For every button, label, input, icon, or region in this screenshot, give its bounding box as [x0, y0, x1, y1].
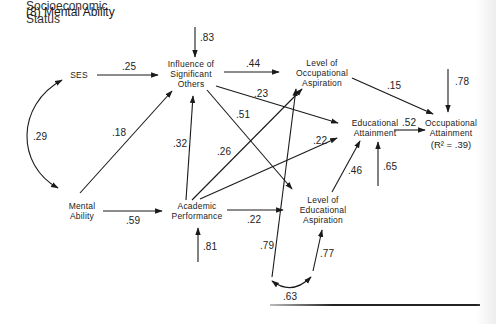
r-squared: (R² = .39) [431, 139, 471, 150]
coef-iso-residual: .83 [200, 32, 214, 43]
page-edge-shadow [476, 0, 496, 324]
svg-text:Occupational: Occupational [425, 118, 477, 128]
coef-ma-iso: .18 [112, 127, 126, 138]
svg-text:Level of: Level of [307, 195, 339, 205]
arrow-residual-correlation [272, 277, 311, 288]
coef-ap-iso: .32 [173, 138, 187, 149]
svg-text:Level of: Level of [306, 58, 338, 68]
arrow-residual-loa [272, 89, 296, 277]
node-level-occupational-aspiration: Level of Occupational Aspiration [296, 58, 348, 88]
coef-loa-residual: .79 [260, 240, 274, 251]
svg-text:Ability: Ability [70, 211, 95, 221]
svg-text:Aspiration: Aspiration [303, 215, 343, 225]
coef-ap-lea: .22 [247, 214, 261, 225]
node-influence-significant-others: Influence of Significant Others [168, 59, 215, 89]
coef-lea-ea: .46 [348, 165, 362, 176]
bottom-rule [270, 304, 480, 306]
coef-ses-ma-correlation: .29 [33, 131, 47, 142]
coef-ea-oa: .52 [402, 117, 416, 128]
coef-loa-oa: .15 [387, 80, 401, 91]
arrow-ap-iso [186, 96, 193, 200]
arrow-ap-loa [192, 89, 302, 200]
coef-ap-ea: .22 [313, 135, 327, 146]
svg-text:Mental: Mental [69, 201, 96, 211]
coef-ea-residual: .65 [383, 161, 397, 172]
svg-text:Attainment: Attainment [430, 128, 473, 138]
node-level-educational-aspiration: Level of Educational Aspiration [300, 195, 347, 225]
svg-text:Educational: Educational [300, 205, 347, 215]
svg-text:Academic: Academic [178, 201, 217, 211]
node-academic-performance: Academic Performance [172, 201, 223, 221]
arrow-ma-iso [80, 91, 172, 193]
node-mental-ability: Mental Ability [69, 201, 96, 221]
svg-text:SES: SES [70, 70, 88, 80]
coef-lea-residual: .77 [320, 248, 334, 259]
coef-iso-lea: .51 [236, 109, 250, 120]
coef-iso-loa: .44 [246, 58, 260, 69]
node-educational-attainment: Educational Attainment [352, 118, 399, 138]
path-diagram: SES Influence of Significant Others Leve… [0, 0, 496, 324]
svg-text:Significant: Significant [170, 69, 212, 79]
coef-ma-ap: .59 [126, 215, 140, 226]
coef-residual-correlation: .63 [283, 291, 297, 302]
coef-ap-loa: .26 [217, 146, 231, 157]
coef-iso-ea: .23 [254, 88, 268, 99]
node-occupational-attainment: Occupational Attainment (R² = .39) [425, 118, 477, 150]
svg-text:Others: Others [178, 79, 205, 89]
svg-text:Educational: Educational [352, 118, 399, 128]
svg-text:Performance: Performance [172, 211, 223, 221]
arrow-iso-ea [216, 86, 338, 123]
svg-text:Attainment: Attainment [354, 128, 397, 138]
coef-ap-residual: .81 [203, 241, 217, 252]
coef-ses-iso: .25 [122, 61, 136, 72]
svg-text:Occupational: Occupational [296, 68, 348, 78]
coef-oa-residual: .78 [455, 76, 469, 87]
svg-text:Aspiration: Aspiration [302, 78, 342, 88]
node-ses: SES [70, 70, 88, 80]
svg-text:Influence of: Influence of [168, 59, 215, 69]
